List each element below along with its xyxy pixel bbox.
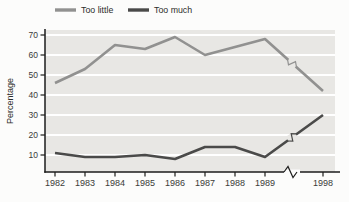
x-tick-label: 1987 [195, 178, 215, 188]
x-tick-label: 1982 [45, 178, 65, 188]
x-tick-label: 1986 [165, 178, 185, 188]
legend: Too littleToo much [55, 5, 192, 15]
line-chart: 1020304050607019821983198419851986198719… [0, 0, 349, 202]
x-tick-label: 1985 [135, 178, 155, 188]
x-tick-label: 1988 [225, 178, 245, 188]
y-tick-label: 40 [29, 90, 39, 100]
y-tick-label: 20 [29, 130, 39, 140]
legend-label: Too little [81, 5, 113, 15]
y-axis-ticks: 10203040506070 [29, 30, 45, 160]
y-axis-title: Percentage [5, 78, 15, 124]
plot-panel [45, 30, 335, 172]
legend-label: Too much [154, 5, 192, 15]
y-tick-label: 60 [29, 50, 39, 60]
y-tick-label: 70 [29, 30, 39, 40]
x-tick-label: 1983 [75, 178, 95, 188]
x-tick-label: 1989 [255, 178, 275, 188]
y-tick-label: 50 [29, 70, 39, 80]
x-tick-label: 1998 [313, 178, 333, 188]
x-tick-label: 1984 [105, 178, 125, 188]
y-tick-label: 30 [29, 110, 39, 120]
y-tick-label: 10 [29, 150, 39, 160]
chart-figure: 1020304050607019821983198419851986198719… [0, 0, 349, 202]
